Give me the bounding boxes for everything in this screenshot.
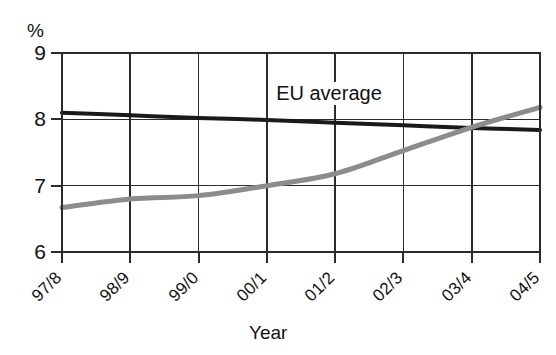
- y-tick-label: 7: [34, 175, 46, 196]
- chart-figure: % 6789 97/898/999/000/101/202/303/404/5 …: [0, 0, 556, 355]
- y-tick-label: 8: [34, 108, 46, 129]
- x-axis-title: Year: [249, 322, 287, 344]
- y-tick-label: 9: [34, 42, 46, 63]
- series-annotation-label: EU average: [273, 82, 385, 105]
- data-series-layer: [62, 107, 540, 207]
- y-tick-label: 6: [34, 241, 46, 262]
- chart-plot-area: [0, 0, 556, 355]
- x-tick-marks: [62, 252, 540, 263]
- y-tick-marks: [51, 53, 62, 252]
